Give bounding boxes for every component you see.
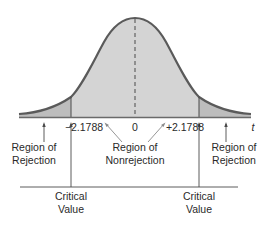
left-rejection-arrowhead bbox=[42, 122, 45, 127]
left-rejection-label-line1: Region of bbox=[4, 141, 64, 154]
nonrejection-label: Region of Nonrejection bbox=[100, 141, 170, 167]
tick-label-zero: 0 bbox=[125, 121, 145, 134]
axis-variable-label: t bbox=[247, 121, 259, 134]
right-critical-value-label-line1: Critical bbox=[174, 190, 224, 203]
nonrejection-label-line1: Region of bbox=[100, 141, 170, 154]
left-critical-value-label: Critical Value bbox=[46, 190, 96, 216]
right-rejection-label-line2: Rejection bbox=[204, 154, 264, 167]
left-rejection-label: Region of Rejection bbox=[4, 141, 64, 167]
tick-label-negative-critical: −2.1788 bbox=[52, 121, 116, 134]
right-rejection-arrowhead bbox=[224, 122, 227, 127]
left-critical-value-label-line2: Value bbox=[46, 203, 96, 216]
tick-label-positive-critical: +2.1788 bbox=[153, 121, 217, 134]
nonrejection-label-line2: Nonrejection bbox=[100, 154, 170, 167]
right-critical-value-label: Critical Value bbox=[174, 190, 224, 216]
right-critical-value-label-line2: Value bbox=[174, 203, 224, 216]
left-rejection-label-line2: Rejection bbox=[4, 154, 64, 167]
right-rejection-label: Region of Rejection bbox=[204, 141, 264, 167]
t-distribution-graphic bbox=[0, 0, 267, 229]
right-rejection-label-line1: Region of bbox=[204, 141, 264, 154]
left-critical-value-label-line1: Critical bbox=[46, 190, 96, 203]
